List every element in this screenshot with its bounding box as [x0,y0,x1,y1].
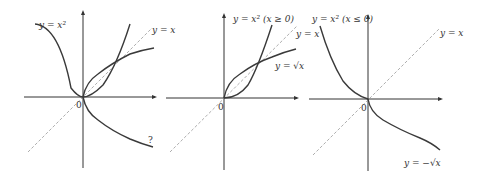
panel-3: y = x² (x ≤ 0) y = x y = −√x 0 [309,14,463,171]
parabola-curve [224,25,272,98]
diagonal-line [28,28,152,152]
diagonal-label: y = x [151,25,175,35]
diagonal-label: y = x [295,29,319,39]
neg-sqrt-label: y = −√x [403,158,441,168]
x-axis-arrow-icon [294,96,299,100]
sqrt-lower-curve [83,97,153,147]
diagonal-line [170,26,297,152]
parabola-label: y = x² (x ≥ 0) [232,14,294,24]
parabola-label: y = x² (x ≤ 0) [311,14,373,24]
origin-label: 0 [76,100,82,110]
origin-label: 0 [218,102,224,112]
neg-sqrt-curve [368,99,440,150]
sqrt-label: y = √x [274,61,304,71]
panel-2: y = x² (x ≥ 0) y = x y = √x 0 [166,13,319,170]
diagonal-label: y = x [439,28,463,38]
parabola-label: y = x² [38,20,66,30]
diagonal-line [313,28,440,155]
x-axis-arrow-icon [152,95,157,99]
x-axis-arrow-icon [438,97,443,101]
y-axis-arrow-icon [222,13,226,18]
origin-label: 0 [361,103,367,113]
sqrt-curve [224,49,296,98]
panel-1: y = x² y = x 0 ? [24,10,175,168]
inverse-function-diagram: y = x² y = x 0 ? y = x² (x ≥ 0) y = x y … [0,0,481,181]
unknown-label: ? [148,135,153,145]
y-axis-arrow-icon [81,10,85,15]
parabola-curve [320,26,368,99]
